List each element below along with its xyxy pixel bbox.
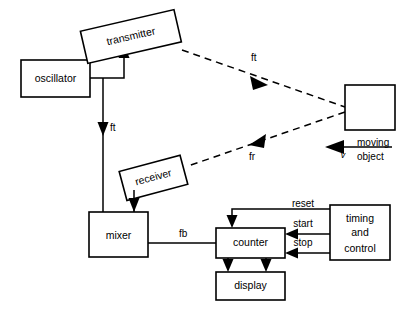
block-moving-object-label-line1: moving — [357, 137, 389, 148]
arrowhead-ft-transmitted — [250, 76, 268, 90]
arrowhead-reset — [227, 215, 238, 228]
arrowhead-display-input-right — [261, 259, 272, 272]
link-reset — [232, 209, 330, 222]
signal-label-ft-transmitted: ft — [251, 52, 257, 63]
block-diagram: oscillator ft transmitter ft fr v moving… — [0, 0, 410, 313]
arrowhead-fr-received — [249, 134, 266, 148]
block-moving-object-label-line2: object — [357, 151, 384, 162]
block-receiver[interactable]: receiver — [119, 155, 188, 200]
signal-label-fr-received: fr — [249, 151, 256, 162]
block-mixer-label: mixer — [106, 229, 132, 241]
block-oscillator-label: oscillator — [35, 72, 77, 84]
block-timing-label-line3: control — [344, 242, 376, 254]
block-transmitter[interactable]: transmitter — [80, 10, 181, 64]
block-counter-label: counter — [233, 236, 269, 248]
block-moving-object[interactable] — [345, 85, 395, 130]
block-timing-label-line2: and — [351, 226, 369, 238]
beam-received — [188, 112, 345, 166]
signal-label-stop: stop — [294, 237, 313, 248]
beam-transmitted — [182, 50, 345, 107]
arrowhead-ft-reference — [98, 122, 109, 136]
block-timing-label-line1: timing — [346, 212, 374, 224]
signal-label-velocity: v — [341, 150, 346, 160]
arrowhead-stop — [285, 248, 298, 259]
arrowhead-display-input-left — [223, 259, 234, 272]
signal-label-reset: reset — [292, 198, 314, 209]
arrowhead-mixer-input — [129, 198, 140, 212]
signal-label-ft-reference: ft — [110, 122, 116, 133]
signal-label-fb: fb — [179, 228, 188, 239]
signal-label-start: start — [293, 218, 313, 229]
block-display-label: display — [234, 279, 267, 291]
